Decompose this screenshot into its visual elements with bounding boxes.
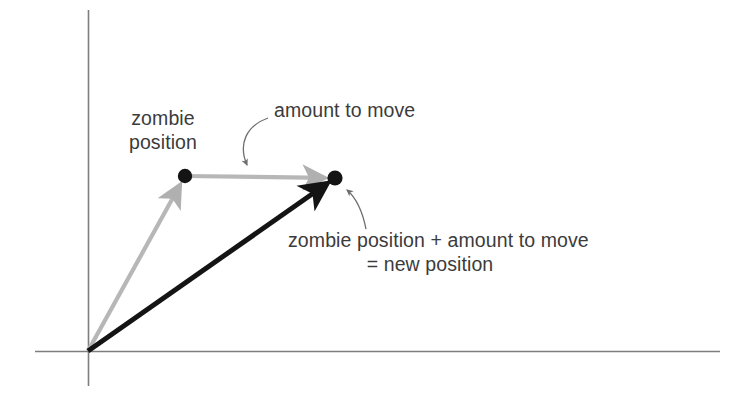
zombie-position-label: zombie position [109,106,217,154]
zombie-position-point [178,169,192,183]
leader-lines [243,118,366,229]
new-position-label-line2: = new position [288,252,572,276]
axes [35,10,720,386]
vector-addition-diagram: zombie position amount to move zombie po… [0,0,740,409]
diagram-canvas [0,0,740,409]
amount-to-move-vector [185,176,325,178]
amount-to-move-leader [243,118,268,165]
amount-to-move-label: amount to move [274,98,415,122]
new-position-leader [347,190,366,229]
zombie-position-label-line2: position [109,130,217,154]
zombie-position-vector [88,185,180,351]
new-position-label: zombie position + amount to move = new p… [288,228,572,276]
new-position-point [327,170,342,185]
new-position-label-line1: zombie position + amount to move [288,228,572,252]
zombie-position-label-line1: zombie [109,106,217,130]
